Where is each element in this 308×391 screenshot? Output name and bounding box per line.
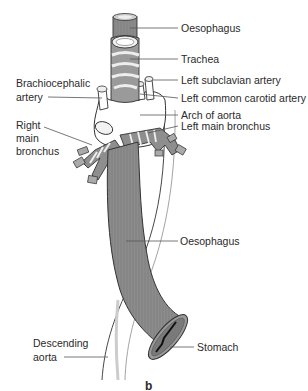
- label-oesophagus-mid: Oesophagus: [180, 235, 240, 247]
- label-right-main-bronchus-line2: main: [16, 132, 39, 144]
- label-trachea: Trachea: [181, 53, 219, 65]
- label-left-common-carotid-artery: Left common carotid artery: [181, 92, 306, 104]
- label-descending-aorta-line2: aorta: [33, 351, 57, 363]
- label-right-main-bronchus-line3: bronchus: [16, 145, 59, 157]
- label-left-main-bronchus: Left main bronchus: [181, 120, 270, 132]
- oesophagus-body: [107, 142, 183, 345]
- anatomy-figure: Oesophagus Trachea Left subclavian arter…: [0, 0, 308, 391]
- oesophagus-diagram-illustration: [0, 0, 308, 391]
- trachea-oesophagus-upper: [111, 14, 139, 103]
- figure-sublabel: b: [145, 380, 152, 391]
- label-brachiocephalic-artery-line1: Brachiocephalic: [16, 77, 90, 89]
- label-left-subclavian-artery: Left subclavian artery: [181, 74, 281, 86]
- label-right-main-bronchus-line1: Right: [16, 119, 41, 131]
- label-stomach: Stomach: [197, 341, 238, 353]
- label-oesophagus-upper: Oesophagus: [181, 22, 241, 34]
- label-brachiocephalic-artery-line2: artery: [16, 91, 43, 103]
- label-descending-aorta-line1: Descending: [33, 337, 88, 349]
